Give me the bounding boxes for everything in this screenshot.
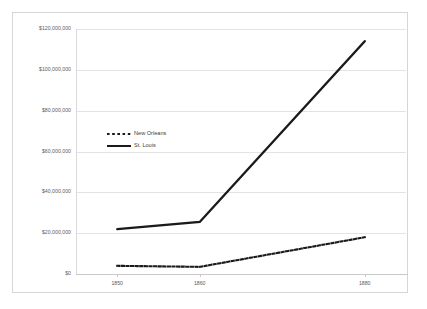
- legend-label-st-louis: St. Louis: [132, 143, 156, 149]
- legend-label-new-orleans: New Orleans: [132, 131, 166, 137]
- series-line-new-orleans: [117, 237, 365, 267]
- series-lines: [13, 13, 409, 294]
- dotted-line-swatch-icon: [106, 130, 132, 138]
- legend-item-new-orleans: New Orleans: [106, 128, 226, 140]
- legend-item-st-louis: St. Louis: [106, 140, 226, 152]
- chart-frame: $120,000,000$100,000,000$80,000,000$60,0…: [12, 12, 408, 293]
- solid-line-swatch-icon: [106, 142, 132, 150]
- plot-area: $120,000,000$100,000,000$80,000,000$60,0…: [13, 13, 409, 294]
- chart-legend: New Orleans St. Louis: [106, 128, 226, 152]
